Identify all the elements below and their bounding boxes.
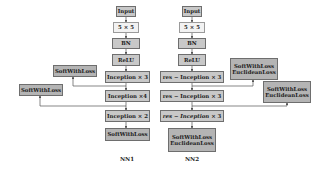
nn1-output-loss: SoftWithLoss xyxy=(105,128,150,141)
nn2-relu-layer: ReLU xyxy=(178,54,206,66)
nn2-aux-loss-2: SoftWithLossEuclideanLoss xyxy=(263,81,311,103)
nn1-title: NN1 xyxy=(120,156,134,162)
nn1-inception-x4-layer: Inception ×4 xyxy=(105,90,150,102)
nn1-bn-layer: BN xyxy=(112,38,140,49)
nn1-aux-loss-2: SoftWithLoss xyxy=(19,84,63,96)
nn2-aux-loss-2-line2: EuclideanLoss xyxy=(265,92,308,98)
nn1-bn-label: BN xyxy=(121,40,130,46)
nn1-inception-x3-label: Inception × 3 xyxy=(107,74,148,80)
nn2-res-inception-3-multiplier: × 3 xyxy=(209,113,221,119)
nn1-aux-loss-1: SoftWithLoss xyxy=(53,65,97,77)
nn2-res-inception-2-label: res − Inception × 3 xyxy=(163,93,222,99)
nn1-relu-label: ReLU xyxy=(118,57,134,63)
nn1-aux-loss-2-label: SoftWithLoss xyxy=(21,87,61,93)
nn2-bn-layer: BN xyxy=(178,38,206,49)
nn1-output-loss-label: SoftWithLoss xyxy=(107,131,147,137)
nn2-input-label: Input xyxy=(184,8,201,14)
nn2-output-loss-line2: EuclideanLoss xyxy=(170,140,213,146)
nn2-res-inception-3-layer: res − Inception × 3 xyxy=(160,110,224,122)
nn2-res-inception-2-layer: res − Inception × 3 xyxy=(160,90,224,102)
nn2-aux-loss-1-line2: EuclideanLoss xyxy=(232,69,275,75)
nn1-relu-layer: ReLU xyxy=(112,54,140,66)
nn2-conv-layer: 5 × 5 xyxy=(179,22,205,33)
nn1-input-label: Input xyxy=(118,8,135,14)
nn2-res-inception-3-label: res − Inception xyxy=(163,113,210,119)
nn1-inception-x4-label: Inception ×4 xyxy=(108,93,147,99)
nn1-conv-layer: 5 × 5 xyxy=(113,22,139,33)
nn2-conv-label: 5 × 5 xyxy=(184,24,200,30)
nn2-bn-label: BN xyxy=(187,40,196,46)
nn2-res-inception-1-label: res − Inception × 3 xyxy=(163,74,222,80)
nn2-aux-loss-1: SoftWithLossEuclideanLoss xyxy=(230,58,278,80)
nn2-relu-label: ReLU xyxy=(184,57,200,63)
nn1-aux-loss-1-label: SoftWithLoss xyxy=(55,68,95,74)
nn2-input-layer: Input xyxy=(182,6,202,17)
nn2-res-inception-1-layer: res − Inception × 3 xyxy=(160,71,224,83)
nn1-inception-x3-layer: Inception × 3 xyxy=(105,71,150,83)
nn2-title: NN2 xyxy=(185,156,199,162)
nn2-output-loss: SoftWithLossEuclideanLoss xyxy=(168,128,216,152)
nn1-inception-x2-label: Inception × 2 xyxy=(107,113,148,119)
nn1-input-layer: Input xyxy=(116,6,136,17)
nn1-conv-label: 5 × 5 xyxy=(118,24,134,30)
nn1-inception-x2-layer: Inception × 2 xyxy=(105,110,150,122)
